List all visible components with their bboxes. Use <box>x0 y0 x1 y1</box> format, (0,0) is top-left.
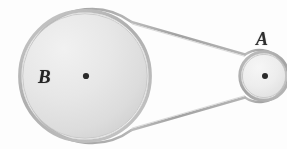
small-pulley-label: A <box>256 30 268 48</box>
belt-lower-span <box>132 98 246 131</box>
small-pulley-A <box>240 52 287 100</box>
pulley-belt-figure: B A <box>0 0 287 149</box>
belt-upper-span-highlight <box>133 24 245 56</box>
small-pulley-hub <box>262 73 268 79</box>
large-pulley-hub <box>83 73 89 79</box>
large-pulley-label: B <box>38 67 51 86</box>
belt-upper-span <box>132 22 246 55</box>
belt-lower-span-highlight <box>133 96 245 128</box>
